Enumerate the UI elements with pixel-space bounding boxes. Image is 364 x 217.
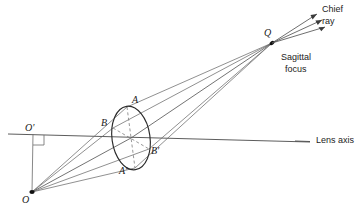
label-object-point-O: O [22,195,29,206]
label-lens-axis: Lens axis [316,136,354,145]
arrow-line-2 [272,20,322,43]
label-aperture-top-A: A [132,95,138,106]
label-axis-foot-point-O-prime: O' [25,123,34,134]
ray-O-to-A [32,43,272,192]
ray-O-to-center-chief [32,43,272,192]
figure-drawing [0,0,364,217]
ray-O-to-Aprime [32,43,272,192]
arrow-line-1 [272,14,317,43]
label-aperture-right-B-prime: B' [151,146,159,157]
perpendicular-drop-line [32,134,33,192]
ray-O-to-B [32,43,272,192]
lens-axis-leader [295,141,310,142]
arrow-line-3 [272,27,325,43]
label-sagittal-focus-line1: Sagittal [281,53,311,62]
optics-figure: O O' A A' B B' Q Lens axis Chief ray Sag… [0,0,364,217]
arrowhead-1 [311,14,318,19]
label-sagittal-focus-line2: focus [285,65,307,74]
sagittal-diameter-dashed [113,128,149,149]
label-aperture-left-B: B [101,118,107,129]
arrowhead-3 [319,27,326,31]
label-aperture-bottom-A-prime: A' [119,166,127,177]
label-chief-ray-line1: Chief [322,5,343,14]
ray-O-to-Bprime [32,43,272,192]
label-focus-point-Q: Q [264,28,271,39]
label-chief-ray-line2: ray [322,17,335,26]
object-point-marker [29,190,34,194]
right-angle-marker [33,135,44,145]
chief-ray-arrow-group [272,14,325,43]
ray-bundle [32,43,272,192]
